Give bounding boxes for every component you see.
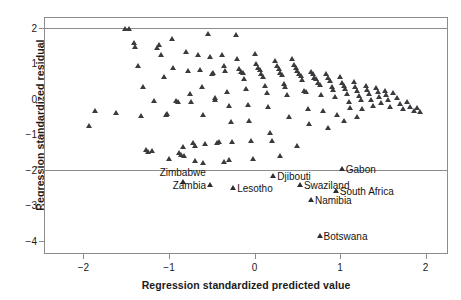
- outlier-marker: [270, 173, 276, 178]
- data-point: [241, 76, 247, 81]
- data-point: [210, 70, 216, 75]
- x-axis-tick: [426, 253, 427, 259]
- data-point: [240, 70, 246, 75]
- data-point: [192, 158, 198, 163]
- scatter-plot-figure: Regression standardized residual 210−1−2…: [0, 0, 461, 300]
- x-axis-tick-label: −1: [163, 262, 174, 273]
- y-axis-tick: [39, 134, 45, 135]
- y-axis-tick-label: −4: [26, 235, 37, 246]
- x-axis-tick: [169, 253, 170, 259]
- x-axis-tick-label: −2: [78, 262, 89, 273]
- data-point: [92, 108, 98, 113]
- data-point: [199, 84, 205, 89]
- outlier-marker: [333, 188, 339, 193]
- x-axis-title: Regression standardized predicted value: [44, 279, 448, 291]
- plot-area: 210−1−2−3−4−2−1012ZimbabweZambiaLesothoD…: [44, 17, 448, 254]
- outlier-label: Gabon: [346, 164, 376, 175]
- y-axis-tick-label: −3: [26, 200, 37, 211]
- data-point: [202, 141, 208, 146]
- data-point: [260, 74, 266, 79]
- data-point: [205, 31, 211, 36]
- y-axis-tick: [39, 241, 45, 242]
- data-point: [169, 36, 175, 41]
- data-point: [262, 83, 268, 88]
- data-point: [305, 106, 311, 111]
- data-point: [149, 148, 155, 153]
- data-point: [265, 104, 271, 109]
- data-point: [294, 143, 300, 148]
- data-point: [330, 87, 336, 92]
- data-point: [317, 82, 323, 87]
- data-point: [138, 113, 144, 118]
- outlier-marker: [230, 185, 236, 190]
- data-point: [175, 99, 181, 104]
- data-point: [248, 138, 254, 143]
- data-point: [354, 114, 360, 119]
- data-point: [351, 79, 357, 84]
- y-axis-tick-label: 0: [31, 93, 37, 104]
- data-point: [233, 32, 239, 37]
- data-point: [113, 110, 119, 115]
- data-point: [156, 42, 162, 47]
- data-point: [197, 67, 203, 72]
- x-axis-tick-label: 2: [423, 262, 429, 273]
- y-axis-tick: [39, 63, 45, 64]
- data-point: [140, 84, 146, 89]
- data-point: [358, 97, 364, 102]
- data-point: [229, 139, 235, 144]
- x-axis-tick: [340, 253, 341, 259]
- y-axis-tick-label: 1: [31, 58, 37, 69]
- data-point: [303, 89, 309, 94]
- data-point: [126, 26, 132, 31]
- x-axis-tick-label: 0: [252, 262, 258, 273]
- data-point: [200, 112, 206, 117]
- data-point: [234, 56, 240, 61]
- data-point: [200, 160, 206, 165]
- data-point: [131, 40, 137, 45]
- data-point: [195, 52, 201, 57]
- data-point: [264, 90, 270, 95]
- data-point: [394, 95, 400, 100]
- data-point: [181, 153, 187, 158]
- y-axis-tick: [39, 170, 45, 171]
- data-point: [185, 68, 191, 73]
- data-point: [366, 91, 372, 96]
- data-point: [250, 156, 256, 161]
- y-axis-tick: [39, 205, 45, 206]
- data-point: [188, 99, 194, 104]
- data-point: [306, 121, 312, 126]
- data-point: [318, 92, 324, 97]
- data-point: [400, 106, 406, 111]
- outlier-marker: [308, 197, 314, 202]
- data-point: [207, 54, 213, 59]
- data-point: [387, 104, 393, 109]
- x-axis-tick-label: 1: [337, 262, 343, 273]
- data-point: [228, 119, 234, 124]
- reference-line: [45, 170, 447, 171]
- data-point: [158, 52, 164, 57]
- data-point: [325, 125, 331, 130]
- data-point: [221, 63, 227, 68]
- reference-line: [45, 28, 447, 29]
- data-point: [183, 49, 189, 54]
- y-axis-tick: [39, 99, 45, 100]
- data-point: [161, 74, 167, 79]
- data-point: [279, 72, 285, 77]
- data-point: [344, 91, 350, 96]
- data-point: [417, 109, 423, 114]
- outlier-marker: [317, 233, 323, 238]
- y-axis-tick-label: 2: [31, 22, 37, 33]
- data-point: [286, 114, 292, 119]
- data-point: [341, 118, 347, 123]
- outlier-label: Namibia: [315, 195, 352, 206]
- data-point: [320, 108, 326, 113]
- data-point: [277, 153, 283, 158]
- data-point: [269, 138, 275, 143]
- data-point: [86, 123, 92, 128]
- data-point: [135, 63, 141, 68]
- data-point: [327, 78, 333, 83]
- data-point: [246, 118, 252, 123]
- outlier-label: Zambia: [173, 179, 206, 190]
- y-axis-tick: [39, 28, 45, 29]
- outlier-label: Botswana: [324, 231, 368, 242]
